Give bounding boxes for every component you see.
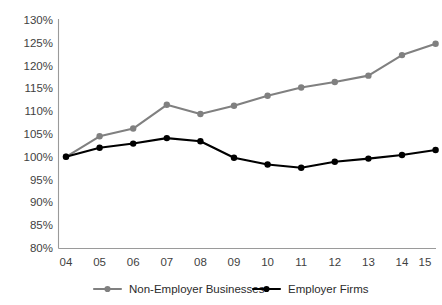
x-axis-tick-labels: 04 05 06 07 08 09 10 11 12 13 14 15 <box>60 256 432 268</box>
y-tick-label: 105% <box>24 128 53 140</box>
data-point <box>231 155 237 161</box>
x-tick-label: 14 <box>396 256 409 268</box>
series-non-employer-businesses <box>63 41 439 160</box>
data-point <box>231 103 237 109</box>
data-point <box>96 144 102 150</box>
y-tick-label: 120% <box>24 60 53 72</box>
data-point <box>365 72 371 78</box>
data-point <box>432 41 438 47</box>
y-tick-label: 115% <box>24 82 53 94</box>
y-tick-label: 110% <box>24 105 53 117</box>
line-chart: 130% 125% 120% 115% 110% 105% 100% 95% 9… <box>0 0 442 305</box>
data-point <box>332 79 338 85</box>
data-point <box>264 161 270 167</box>
legend-label-non-employer-businesses: Non-Employer Businesses <box>129 283 265 295</box>
data-point <box>96 133 102 139</box>
data-point <box>130 125 136 131</box>
y-tick-label: 90% <box>30 196 53 208</box>
data-point <box>130 140 136 146</box>
x-tick-label: 12 <box>328 256 341 268</box>
chart-canvas: 130% 125% 120% 115% 110% 105% 100% 95% 9… <box>0 0 442 305</box>
data-point <box>264 93 270 99</box>
legend-label-employer-firms: Employer Firms <box>288 283 369 295</box>
series-line <box>66 138 436 168</box>
data-point <box>399 52 405 58</box>
x-tick-label: 05 <box>93 256 106 268</box>
legend-swatch-marker-0 <box>104 286 110 292</box>
y-tick-label: 85% <box>30 219 53 231</box>
x-tick-label: 15 <box>419 256 432 268</box>
legend-swatch-marker-1 <box>263 286 269 292</box>
x-tick-label: 04 <box>60 256 73 268</box>
y-tick-label: 80% <box>30 242 53 254</box>
x-tick-label: 06 <box>127 256 140 268</box>
x-tick-label: 11 <box>295 256 307 268</box>
y-tick-label: 100% <box>24 151 53 163</box>
x-tick-label: 13 <box>362 256 375 268</box>
data-point <box>164 102 170 108</box>
x-tick-label: 10 <box>261 256 274 268</box>
series-employer-firms <box>63 135 439 171</box>
y-tick-label: 95% <box>30 174 53 186</box>
data-point <box>432 147 438 153</box>
x-tick-label: 08 <box>194 256 207 268</box>
legend: Non-Employer Businesses Employer Firms <box>94 283 369 295</box>
y-tick-label: 130% <box>24 14 53 26</box>
data-point <box>197 111 203 117</box>
x-tick-label: 09 <box>228 256 241 268</box>
data-point <box>399 152 405 158</box>
data-point <box>164 135 170 141</box>
series-layer <box>63 41 439 171</box>
data-point <box>332 159 338 165</box>
data-point <box>298 84 304 90</box>
y-axis-tick-labels: 130% 125% 120% 115% 110% 105% 100% 95% 9… <box>24 14 53 254</box>
data-point <box>197 138 203 144</box>
data-point <box>63 154 69 160</box>
data-point <box>298 165 304 171</box>
data-point <box>365 155 371 161</box>
x-tick-label: 07 <box>160 256 173 268</box>
series-line <box>66 44 436 157</box>
y-tick-label: 125% <box>24 37 53 49</box>
